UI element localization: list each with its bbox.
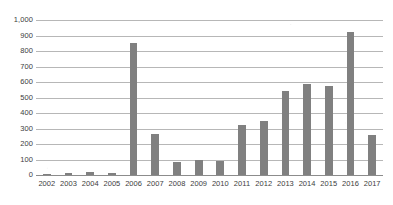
bar-slot — [101, 20, 123, 175]
bar[interactable] — [216, 161, 224, 175]
x-axis-tick-label: 2002 — [36, 180, 58, 188]
y-axis-tick-label: 800 — [1, 47, 33, 55]
bar[interactable] — [130, 43, 138, 175]
bar-slot — [275, 20, 297, 175]
x-axis-tick-label: 2004 — [79, 180, 101, 188]
bar[interactable] — [195, 160, 203, 176]
bar-slot — [144, 20, 166, 175]
bars-layer — [36, 20, 383, 175]
axis-baseline — [36, 175, 383, 176]
bar-slot — [79, 20, 101, 175]
bar[interactable] — [238, 125, 246, 175]
y-axis-tick-labels: 01002003004005006007008009001,000 — [0, 20, 33, 175]
y-axis-tick-label: 1,000 — [1, 16, 33, 24]
bar-slot — [318, 20, 340, 175]
x-axis-tick-label: 2003 — [58, 180, 80, 188]
y-axis-tick-label: 500 — [1, 94, 33, 102]
bar-slot — [58, 20, 80, 175]
bar[interactable] — [303, 84, 311, 175]
x-axis-tick-label: 2008 — [166, 180, 188, 188]
bar[interactable] — [86, 172, 94, 175]
bar-slot — [36, 20, 58, 175]
x-axis-tick-label: 2015 — [318, 180, 340, 188]
x-axis-tick-label: 2010 — [210, 180, 232, 188]
y-axis-tick-label: 700 — [1, 63, 33, 71]
bar[interactable] — [260, 121, 268, 175]
bar-slot — [188, 20, 210, 175]
bar-slot — [123, 20, 145, 175]
x-axis-tick-label: 2012 — [253, 180, 275, 188]
bar-slot — [210, 20, 232, 175]
bar[interactable] — [108, 173, 116, 175]
y-axis-tick-label: 900 — [1, 32, 33, 40]
x-axis-tick-labels: 2002200320042005200620072008200920102011… — [36, 180, 383, 188]
bar[interactable] — [43, 174, 51, 175]
bar-chart: 01002003004005006007008009001,000 200220… — [0, 0, 393, 205]
x-axis-tick-label: 2013 — [275, 180, 297, 188]
bar[interactable] — [151, 134, 159, 175]
y-axis-tick-label: 400 — [1, 109, 33, 117]
x-axis-tick-label: 2017 — [361, 180, 383, 188]
bar[interactable] — [347, 32, 355, 175]
bar[interactable] — [325, 86, 333, 175]
y-axis-tick-label: 0 — [1, 171, 33, 179]
bar[interactable] — [65, 173, 73, 175]
bar-slot — [340, 20, 362, 175]
bar-slot — [296, 20, 318, 175]
y-axis-tick-label: 300 — [1, 125, 33, 133]
bar[interactable] — [368, 135, 376, 175]
bar-slot — [361, 20, 383, 175]
bar[interactable] — [173, 162, 181, 175]
x-axis-tick-label: 2009 — [188, 180, 210, 188]
bar-slot — [253, 20, 275, 175]
x-axis-tick-label: 2007 — [144, 180, 166, 188]
y-axis-tick-label: 100 — [1, 156, 33, 164]
x-axis-tick-label: 2005 — [101, 180, 123, 188]
x-axis-tick-label: 2006 — [123, 180, 145, 188]
x-axis-tick-label: 2016 — [340, 180, 362, 188]
x-axis-tick-label: 2011 — [231, 180, 253, 188]
x-axis-tick-label: 2014 — [296, 180, 318, 188]
bar-slot — [166, 20, 188, 175]
bar-slot — [231, 20, 253, 175]
bar[interactable] — [282, 91, 290, 175]
y-axis-tick-label: 600 — [1, 78, 33, 86]
y-axis-tick-label: 200 — [1, 140, 33, 148]
